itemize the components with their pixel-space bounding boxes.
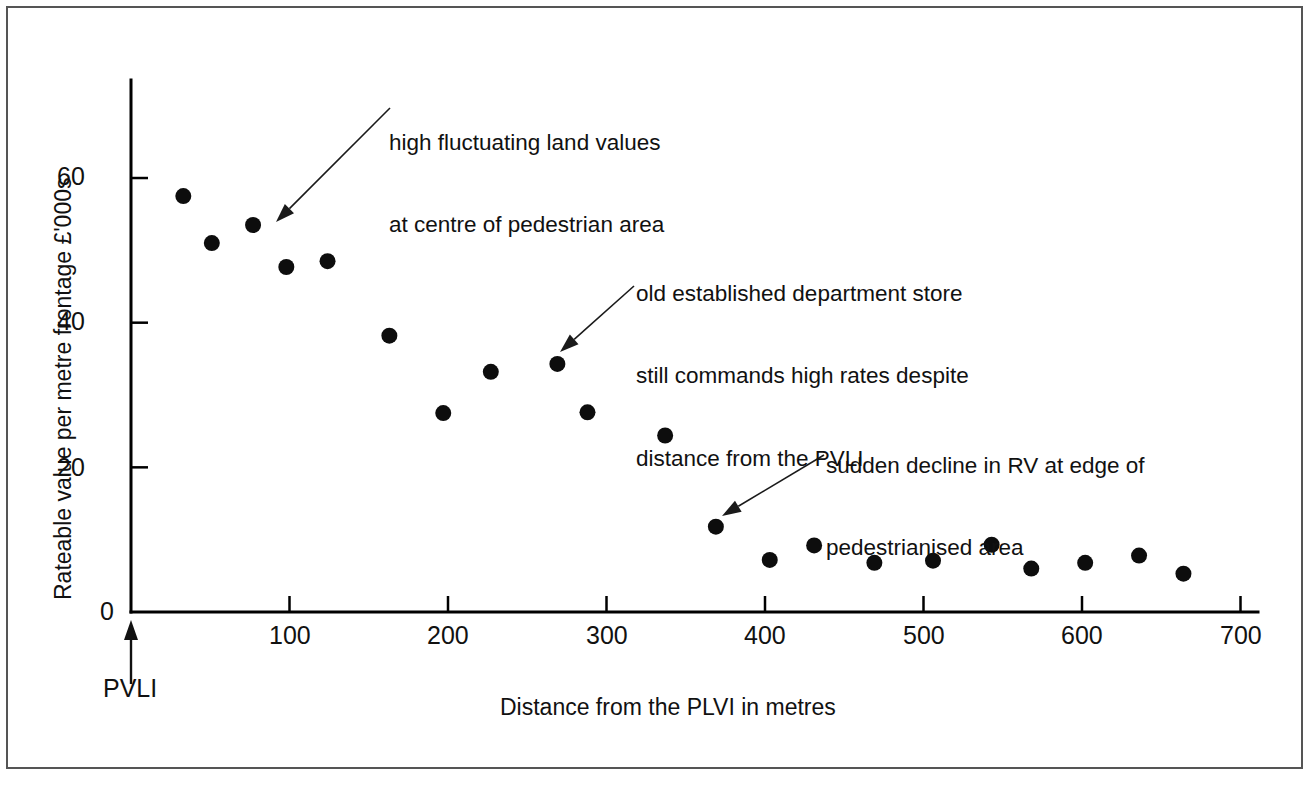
annotation-department-store-line-2: still commands high rates despite	[636, 362, 969, 389]
data-point	[381, 328, 397, 344]
annotation-high-fluctuating: high fluctuating land values at centre o…	[389, 74, 664, 294]
x-tick-label-500: 500	[903, 620, 945, 651]
annotation-high-fluctuating-line-2: at centre of pedestrian area	[389, 211, 664, 238]
data-point	[549, 356, 565, 372]
data-point	[579, 404, 595, 420]
annotation-high-fluctuating-arrow	[276, 108, 390, 222]
x-tick-label-100: 100	[269, 620, 311, 651]
data-point	[483, 364, 499, 380]
annotation-high-fluctuating-line-1: high fluctuating land values	[389, 129, 664, 156]
data-point	[762, 552, 778, 568]
data-point	[175, 188, 191, 204]
x-tick-label-400: 400	[744, 620, 786, 651]
x-tick-label-200: 200	[427, 620, 469, 651]
origin-marker-label: PVLI	[103, 673, 157, 704]
x-tick-label-700: 700	[1220, 620, 1262, 651]
data-point	[204, 235, 220, 251]
origin-arrow-head	[124, 620, 138, 640]
x-tick-label-300: 300	[586, 620, 628, 651]
annotation-sudden-decline-line-2: pedestrianised area	[826, 534, 1145, 561]
annotation-department-store-line-1: old established department store	[636, 280, 969, 307]
annotation-sudden-decline: sudden decline in RV at edge of pedestri…	[826, 397, 1145, 617]
figure-container: 60 40 20 0 100 200 300 400 500 600 700 R…	[0, 0, 1313, 791]
data-point	[278, 259, 294, 275]
annotation-department-store-arrow-shaft	[574, 286, 634, 339]
data-point	[435, 405, 451, 421]
x-tick-label-600: 600	[1061, 620, 1103, 651]
annotation-high-fluctuating-arrow-shaft	[289, 108, 390, 209]
y-tick-label-0: 0	[100, 596, 114, 627]
y-axis-title: Rateable value per metre frontage £'000s	[50, 178, 77, 601]
data-point	[320, 253, 336, 269]
annotation-sudden-decline-line-1: sudden decline in RV at edge of	[826, 452, 1145, 479]
data-point	[806, 537, 822, 553]
data-point	[245, 217, 261, 233]
data-point	[1175, 566, 1191, 582]
x-axis-title: Distance from the PLVI in metres	[500, 693, 836, 721]
annotation-department-store-arrow	[560, 286, 634, 352]
